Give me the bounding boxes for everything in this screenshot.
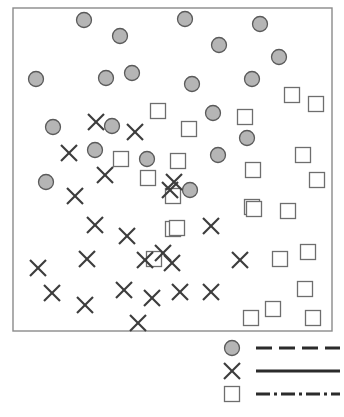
marker-circle	[39, 175, 54, 190]
marker-square	[170, 221, 185, 236]
marker-square	[298, 282, 313, 297]
marker-circle	[105, 119, 120, 134]
marker-square	[310, 173, 325, 188]
marker-square	[296, 148, 311, 163]
marker-square	[141, 171, 156, 186]
marker-circle	[99, 71, 114, 86]
marker-circle	[245, 72, 260, 87]
marker-square	[285, 88, 300, 103]
marker-square	[301, 245, 316, 260]
marker-square	[309, 97, 324, 112]
marker-circle	[185, 77, 200, 92]
marker-circle	[46, 120, 61, 135]
marker-square	[182, 122, 197, 137]
marker-square	[166, 189, 181, 204]
marker-square	[306, 311, 321, 326]
marker-square	[281, 204, 296, 219]
marker-circle	[29, 72, 44, 87]
marker-circle	[212, 38, 227, 53]
marker-circle	[272, 50, 287, 65]
marker-square	[151, 104, 166, 119]
legend-circle-icon	[225, 341, 240, 356]
marker-square	[244, 311, 259, 326]
legend-square-icon	[225, 387, 240, 402]
marker-square	[273, 252, 288, 267]
marker-square	[238, 110, 253, 125]
marker-circle	[253, 17, 268, 32]
marker-square	[246, 163, 261, 178]
marker-circle	[211, 148, 226, 163]
marker-circle	[77, 13, 92, 28]
marker-circle	[140, 152, 155, 167]
marker-circle	[113, 29, 128, 44]
marker-circle	[240, 131, 255, 146]
marker-square	[114, 152, 129, 167]
marker-circle	[178, 12, 193, 27]
marker-square	[171, 154, 186, 169]
marker-circle	[183, 183, 198, 198]
marker-square	[247, 202, 262, 217]
marker-square	[266, 302, 281, 317]
marker-circle	[88, 143, 103, 158]
marker-circle	[125, 66, 140, 81]
marker-circle	[206, 106, 221, 121]
plot-canvas	[0, 0, 344, 417]
scatter-plot-figure	[0, 0, 344, 417]
